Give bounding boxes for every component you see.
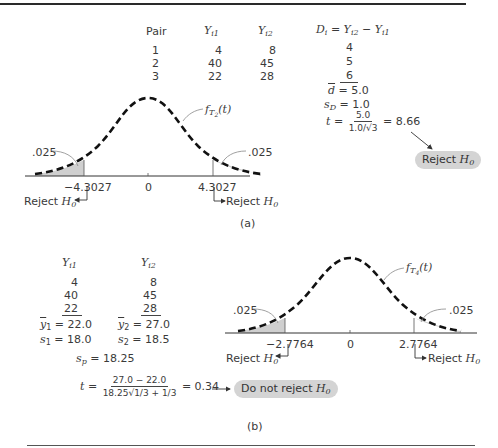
density-curve-a (35, 98, 261, 174)
density-curve-b (238, 258, 461, 331)
chart-a (25, 98, 432, 201)
figure-graphics (0, 0, 498, 448)
chart-b (212, 258, 477, 389)
